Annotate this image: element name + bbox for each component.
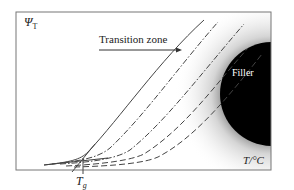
transition-zone-diagram: ΨT Transition zone Filler T/°C Tg (0, 0, 294, 190)
tg-symbol: T (76, 174, 83, 188)
tg-subscript: g (83, 181, 87, 190)
tg-label: Tg (76, 174, 87, 190)
filler-label: Filler (232, 67, 254, 78)
filler-halo (120, 0, 294, 190)
y-axis-label: ΨT (24, 15, 37, 31)
x-axis-label: T/°C (243, 154, 264, 166)
transition-zone-label: Transition zone (99, 33, 167, 45)
y-axis-subscript: T (32, 22, 37, 31)
